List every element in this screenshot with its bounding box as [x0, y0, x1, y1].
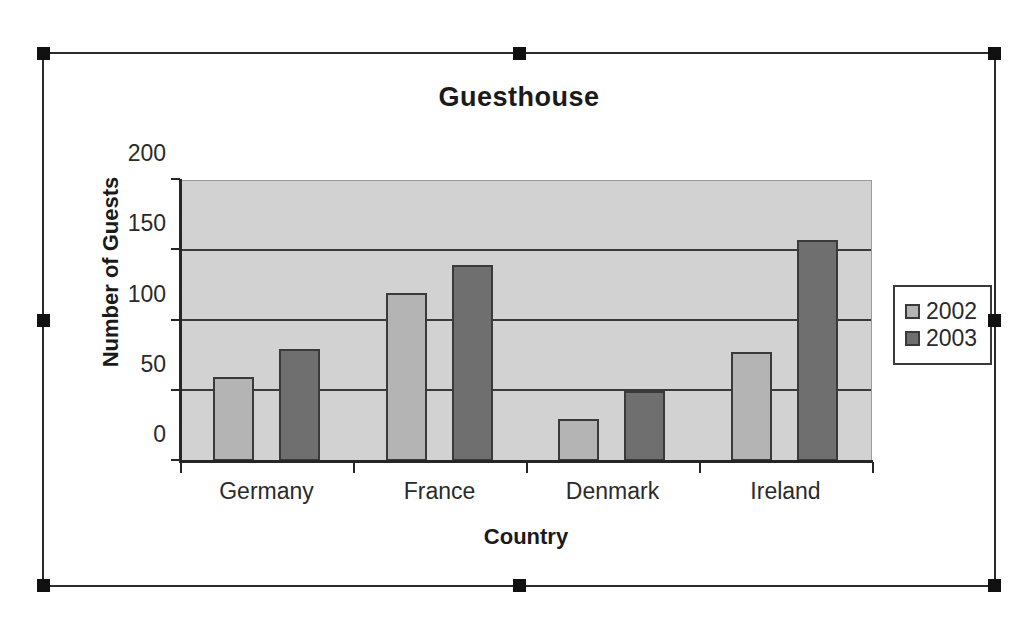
chart-object[interactable]: Guesthouse 050100150200 GermanyFranceDen…	[42, 52, 996, 587]
x-tick	[180, 462, 182, 473]
y-tick-label: 200	[128, 140, 166, 167]
y-axis-title: Number of Guests	[98, 142, 124, 402]
x-tick	[353, 462, 355, 473]
plot-area	[180, 180, 872, 461]
legend-item-2003[interactable]: 2003	[905, 327, 977, 350]
x-tick	[526, 462, 528, 473]
bar-2002-Germany[interactable]	[213, 377, 254, 461]
bar-2003-Denmark[interactable]	[624, 391, 665, 461]
chart-legend[interactable]: 20022003	[893, 285, 992, 365]
legend-label: 2002	[926, 300, 977, 323]
bars-layer	[180, 181, 871, 461]
x-category-label: Denmark	[526, 478, 699, 505]
y-tick	[171, 178, 180, 180]
resize-handle-middle-left[interactable]	[37, 314, 50, 327]
legend-swatch-icon	[905, 331, 920, 346]
bar-group	[698, 181, 871, 461]
y-tick	[171, 319, 180, 321]
legend-label: 2003	[926, 327, 977, 350]
bar-group	[526, 181, 699, 461]
x-tick	[872, 462, 874, 473]
y-tick-label: 50	[140, 350, 166, 377]
x-category-label: France	[353, 478, 526, 505]
bar-2003-Germany[interactable]	[279, 349, 320, 461]
x-axis-title: Country	[180, 524, 872, 550]
chart-title: Guesthouse	[44, 82, 994, 113]
bar-2003-France[interactable]	[452, 265, 493, 461]
y-tick	[171, 459, 180, 461]
x-category-label: Germany	[180, 478, 353, 505]
bar-2003-Ireland[interactable]	[797, 240, 838, 461]
resize-handle-bottom-center[interactable]	[513, 579, 526, 592]
x-category-label: Ireland	[699, 478, 872, 505]
resize-handle-top-left[interactable]	[37, 47, 50, 60]
bar-group	[353, 181, 526, 461]
y-tick-label: 150	[128, 210, 166, 237]
legend-item-2002[interactable]: 2002	[905, 300, 977, 323]
resize-handle-top-center[interactable]	[513, 47, 526, 60]
x-axis-ticks	[180, 462, 872, 474]
y-tick-label: 100	[128, 280, 166, 307]
y-axis-line	[179, 179, 182, 462]
bar-group	[180, 181, 353, 461]
bar-2002-France[interactable]	[386, 293, 427, 461]
resize-handle-top-right[interactable]	[988, 47, 1001, 60]
resize-handle-bottom-right[interactable]	[988, 579, 1001, 592]
y-tick	[171, 248, 180, 250]
bar-2002-Ireland[interactable]	[731, 352, 772, 461]
y-tick-label: 0	[153, 421, 166, 448]
resize-handle-bottom-left[interactable]	[37, 579, 50, 592]
bar-2002-Denmark[interactable]	[558, 419, 599, 461]
x-axis-category-labels: GermanyFranceDenmarkIreland	[180, 478, 872, 505]
x-tick	[699, 462, 701, 473]
legend-swatch-icon	[905, 304, 920, 319]
y-tick	[171, 389, 180, 391]
resize-handle-middle-right[interactable]	[988, 314, 1001, 327]
